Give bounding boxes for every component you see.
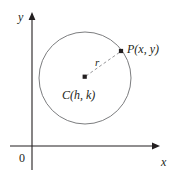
y-axis-arrowhead-icon [29, 12, 36, 20]
y-axis-label: y [17, 10, 24, 24]
circle-diagram-figure: y x 0 r P(x, y) C(h, k) [0, 0, 178, 179]
point-p-label: P(x, y) [126, 42, 159, 56]
x-axis-arrowhead-icon [152, 143, 160, 150]
radius-label: r [95, 56, 100, 68]
x-axis-label: x [160, 155, 167, 169]
radius-dashed-line [86, 52, 120, 76]
origin-label: 0 [19, 151, 25, 165]
center-point-marker [83, 75, 87, 79]
p-point-marker [119, 49, 123, 53]
diagram-canvas: y x 0 r P(x, y) C(h, k) [0, 0, 178, 179]
center-c-label: C(h, k) [62, 88, 95, 102]
